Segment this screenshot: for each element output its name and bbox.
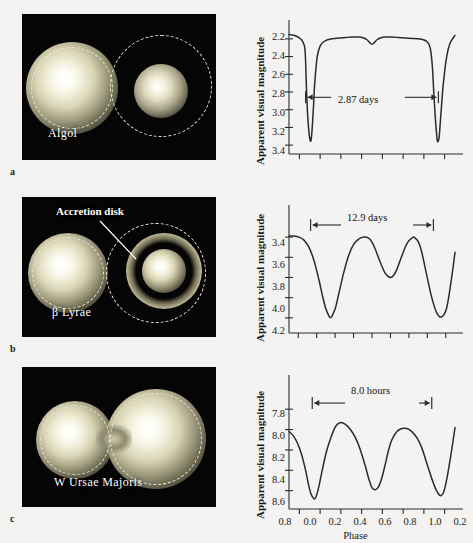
y-tick-label: 2.8 [257,88,285,99]
panel-b-ylabel: Apparent visual magnitude [254,214,266,342]
y-tick-label: 3.0 [257,107,285,118]
panel-a-star-name: Algol [48,126,77,141]
panel-a-chart: Apparent visual magnitude 2.2 2.4 2.6 2.… [243,14,468,174]
eclipsing-binary-figure: Algol a Apparent visual magnitude 2.2 2.… [0,0,473,543]
panel-b-period-label: 12.9 days [347,212,387,223]
y-tick-label: 3.8 [257,281,285,292]
y-tick-label: 3.6 [257,259,285,270]
roche-lobe-left [31,47,113,129]
y-tick-label: 3.4 [257,145,285,156]
y-tick-label: 3.2 [257,126,285,137]
x-tick-label: 0.8 [398,516,422,527]
panel-b: Accretion disk β Lyrae b Apparent visual… [0,185,473,365]
x-tick-label: 0.2 [323,516,347,527]
x-tick-label: 0.4 [348,516,372,527]
x-tick-label: 1.0 [423,516,447,527]
y-tick-label: 2.4 [257,50,285,61]
y-tick-label: 8.4 [257,474,285,485]
y-tick-label: 8.2 [257,452,285,463]
panel-b-chart: Apparent visual magnitude 3.4 3.6 3.8 4.… [243,197,468,349]
y-tick-label: 4.2 [257,325,285,336]
x-tick-label: 0.8 [273,516,297,527]
y-tick-label: 4.0 [257,303,285,314]
accretion-disk-label: Accretion disk [56,205,124,217]
x-tick-label: 0.2 [448,516,472,527]
y-tick-label: 2.2 [257,31,285,42]
panel-b-letter: b [10,343,16,354]
roche-lobe-left [40,405,110,475]
y-tick-label: 3.4 [257,237,285,248]
roche-lobe-right [110,393,202,485]
panel-a-period-label: 2.87 days [338,94,378,105]
y-tick-label: 7.8 [257,408,285,419]
panel-b-photo: Accretion disk β Lyrae [22,197,216,337]
x-tick-label: 0.0 [298,516,322,527]
panel-c-chart: Apparent visual magnitude 7.8 8.0 8.2 8.… [243,367,468,537]
panel-c-letter: c [10,513,14,524]
panel-c-period-label: 8.0 hours [351,385,390,396]
y-tick-label: 2.6 [257,69,285,80]
panel-a-photo: Algol [22,14,216,160]
roche-lobe-right [110,35,212,137]
y-tick-label: 8.0 [257,430,285,441]
panel-c-photo: W Ursae Majoris [22,367,216,507]
panel-a-letter: a [10,166,15,177]
panel-c: W Ursae Majoris c Apparent visual magnit… [0,355,473,543]
panel-c-star-name: W Ursae Majoris [54,475,142,490]
panel-b-star-name: β Lyrae [52,305,91,320]
panel-a: Algol a Apparent visual magnitude 2.2 2.… [0,0,473,190]
x-tick-label: 0.6 [373,516,397,527]
y-tick-label: 8.6 [257,496,285,507]
x-axis-title: Phase [243,530,468,541]
